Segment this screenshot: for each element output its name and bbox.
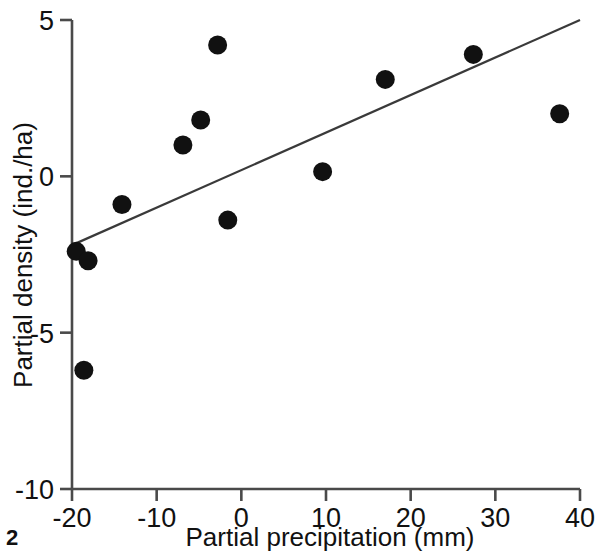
x-tick-label: 40	[565, 503, 595, 533]
regression-line	[72, 20, 580, 245]
data-point-marker	[208, 36, 227, 55]
y-axis-title: Partial density (ind./ha)	[8, 122, 38, 388]
regression-line-layer	[72, 20, 580, 245]
data-point-marker	[464, 45, 483, 64]
x-tick-label: -20	[52, 503, 91, 533]
figure-container: -10-505 -20-10010203040 Partial precipit…	[0, 0, 595, 554]
y-tick-label: -10	[15, 475, 54, 505]
data-point-marker	[313, 162, 332, 181]
data-point-marker	[112, 195, 131, 214]
data-points-layer	[67, 36, 569, 380]
y-tick-label: 5	[39, 6, 54, 36]
data-point-marker	[218, 211, 237, 230]
data-point-marker	[376, 70, 395, 89]
y-tick-label: 0	[39, 162, 54, 192]
x-axis-ticks	[72, 489, 580, 501]
x-tick-label: -10	[137, 503, 176, 533]
data-point-marker	[74, 361, 93, 380]
data-point-marker	[173, 136, 192, 155]
x-tick-label: 30	[480, 503, 510, 533]
data-point-marker	[191, 111, 210, 130]
axes-group	[72, 20, 580, 489]
data-point-marker	[550, 104, 569, 123]
scatter-plot-svg: -10-505 -20-10010203040 Partial precipit…	[0, 0, 595, 554]
figure-number-label: 2	[6, 525, 18, 550]
x-axis-title: Partial precipitation (mm)	[186, 522, 475, 552]
data-point-marker	[79, 251, 98, 270]
